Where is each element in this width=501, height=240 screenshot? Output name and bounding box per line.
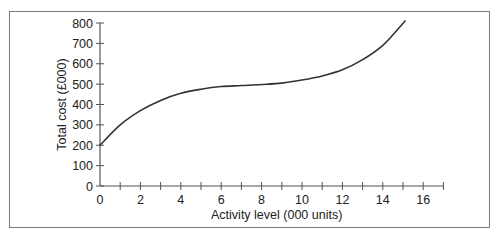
y-tick-label: 700	[72, 37, 93, 51]
y-tick-label: 200	[72, 139, 93, 153]
y-tick-label: 600	[72, 57, 93, 71]
x-tick-label: 0	[97, 193, 104, 207]
x-tick-label: 12	[335, 193, 349, 207]
y-axis-title: Total cost (£000)	[55, 58, 69, 150]
x-tick-label: 10	[295, 193, 309, 207]
total-cost-curve	[100, 21, 405, 145]
y-tick-label: 500	[72, 78, 93, 92]
y-tick-label: 100	[72, 159, 93, 173]
x-tick-label: 4	[177, 193, 184, 207]
x-tick-label: 16	[416, 193, 430, 207]
y-tick-label: 800	[72, 17, 93, 31]
x-tick-label: 6	[218, 193, 225, 207]
x-axis-title: Activity level (000 units)	[211, 208, 342, 222]
y-tick-label: 300	[72, 118, 93, 132]
chart-plot: 01002003004005006007008000246810121416Ac…	[0, 0, 501, 240]
x-tick-label: 14	[376, 193, 390, 207]
y-tick-label: 0	[86, 180, 93, 194]
x-tick-label: 2	[137, 193, 144, 207]
x-tick-label: 8	[258, 193, 265, 207]
y-tick-label: 400	[72, 98, 93, 112]
